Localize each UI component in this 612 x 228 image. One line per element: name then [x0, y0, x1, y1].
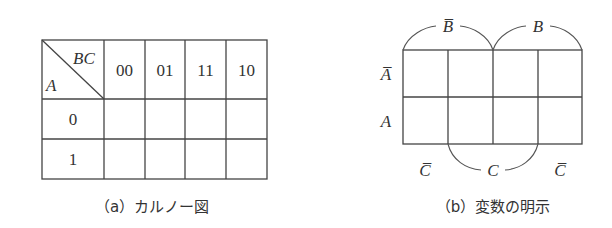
- caption-b: （b）変数の明示: [436, 198, 551, 216]
- a-label: A: [380, 112, 392, 131]
- karnaugh-figure: BC A 00 01 11 10 0 1 （a）カルノー図 B̅ B C C̅ …: [0, 0, 612, 228]
- row-var-label: A: [45, 76, 57, 95]
- karnaugh-map-b: B̅ B C C̅ C̅ A̅ A: [380, 17, 582, 180]
- c-bar-label-right: C̅: [554, 161, 567, 180]
- a-bar-label: A̅: [380, 65, 393, 84]
- row-header: 0: [69, 110, 78, 129]
- row-header: 1: [69, 150, 78, 169]
- b-bar-arc: [403, 26, 436, 50]
- col-header: 01: [157, 61, 174, 80]
- b-arc: [550, 26, 582, 50]
- col-header: 11: [197, 61, 213, 80]
- c-bar-label-left: C̅: [419, 161, 432, 180]
- col-header: 00: [116, 61, 133, 80]
- col-var-label: BC: [73, 49, 95, 68]
- b-arc: [493, 26, 526, 50]
- c-arc: [505, 144, 538, 170]
- b-bar-label: B̅: [443, 17, 454, 36]
- c-arc: [448, 144, 481, 170]
- c-label: C: [487, 161, 499, 180]
- col-header: 10: [238, 61, 255, 80]
- karnaugh-map-a: BC A 00 01 11 10 0 1: [42, 40, 267, 179]
- caption-a: （a）カルノー図: [95, 198, 209, 216]
- b-label: B: [533, 17, 544, 36]
- b-bar-arc: [460, 26, 493, 50]
